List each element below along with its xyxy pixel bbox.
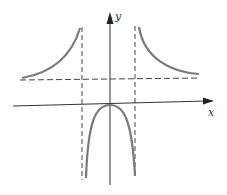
x-axis-label: x: [208, 106, 215, 119]
function-graph: y x: [0, 0, 227, 195]
x-axis-arrow-icon: [203, 98, 214, 105]
curve-right-branch: [139, 27, 199, 74]
y-axis-label: y: [114, 10, 122, 23]
curve-left-branch: [22, 28, 80, 78]
y-axis-arrow-icon: [107, 12, 114, 24]
